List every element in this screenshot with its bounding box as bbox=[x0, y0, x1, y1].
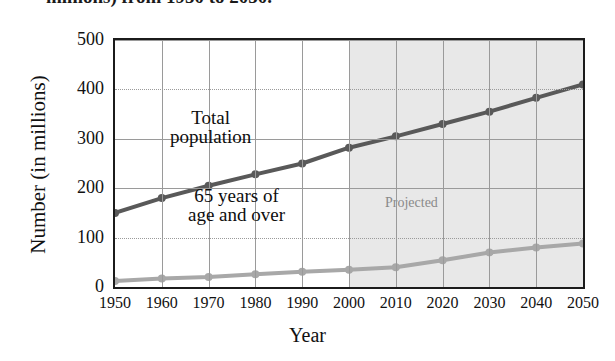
y-tick-label: 500 bbox=[52, 29, 104, 50]
x-tick-label: 1970 bbox=[186, 294, 232, 312]
plot-area: Projected bbox=[113, 38, 585, 289]
x-tick-label: 2030 bbox=[466, 294, 512, 312]
y-tick-label: 100 bbox=[52, 227, 104, 248]
annotation-65-and-over: 65 years of age and over bbox=[188, 186, 285, 225]
x-tick-label: 2020 bbox=[420, 294, 466, 312]
population-line-chart: Number (in millions) Projected Total pop… bbox=[0, 0, 615, 361]
y-tick-label: 200 bbox=[52, 177, 104, 198]
annotation-total-line2: population bbox=[170, 127, 251, 146]
data-point bbox=[115, 277, 119, 285]
annotation-elderly-line2: age and over bbox=[188, 205, 285, 224]
x-tick-label: 1990 bbox=[279, 294, 325, 312]
x-tick-label: 1950 bbox=[92, 294, 138, 312]
y-axis-title: Number (in millions) bbox=[26, 35, 51, 295]
gridline-vertical bbox=[349, 40, 350, 287]
annotation-total-line1: Total bbox=[170, 108, 251, 127]
data-point bbox=[579, 240, 583, 248]
y-tick-label: 300 bbox=[52, 128, 104, 149]
x-tick-label: 2010 bbox=[373, 294, 419, 312]
annotation-elderly-line1: 65 years of bbox=[188, 186, 285, 205]
gridline-vertical bbox=[489, 40, 490, 287]
x-tick-label: 1980 bbox=[232, 294, 278, 312]
gridline-vertical bbox=[255, 40, 256, 287]
plot-inner: Projected bbox=[115, 40, 583, 287]
gridline-vertical bbox=[396, 40, 397, 287]
gridline-vertical bbox=[302, 40, 303, 287]
y-tick-label: 400 bbox=[52, 78, 104, 99]
gridline-vertical bbox=[209, 40, 210, 287]
gridline-vertical bbox=[162, 40, 163, 287]
x-tick-label: 1960 bbox=[139, 294, 185, 312]
x-tick-label: 2040 bbox=[513, 294, 559, 312]
x-axis-title: Year bbox=[0, 324, 615, 347]
x-tick-label: 2000 bbox=[326, 294, 372, 312]
gridline-vertical bbox=[536, 40, 537, 287]
x-tick-label: 2050 bbox=[560, 294, 606, 312]
annotation-total-population: Total population bbox=[170, 108, 251, 147]
gridline-vertical bbox=[443, 40, 444, 287]
